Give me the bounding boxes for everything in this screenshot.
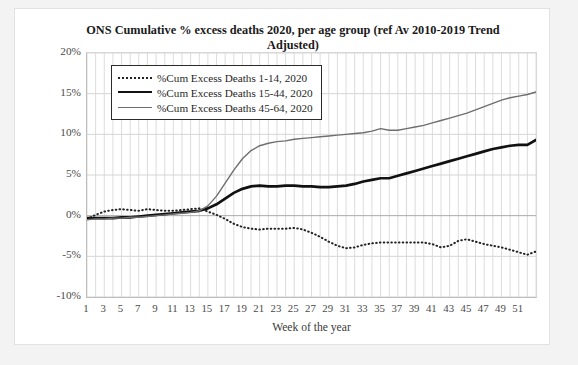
legend-item-label: %Cum Excess Deaths 1-14, 2020 xyxy=(157,72,307,84)
chart-card: ONS Cumulative % excess deaths 2020, per… xyxy=(14,8,550,345)
y-tick-label: 5% xyxy=(35,167,81,179)
legend-item[interactable]: %Cum Excess Deaths 15-44, 2020 xyxy=(118,85,313,100)
y-axis-ticks: 20%15%10%5%0%-5%-10% xyxy=(25,9,81,346)
y-tick-label: -10% xyxy=(35,289,81,301)
chart-legend: %Cum Excess Deaths 1-14, 2020%Cum Excess… xyxy=(111,65,322,120)
y-tick-label: 20% xyxy=(35,45,81,57)
y-tick-label: 15% xyxy=(35,86,81,98)
x-axis-ticks: 1357911131517192123252729313335373941434… xyxy=(86,302,537,322)
legend-line-swatch-icon xyxy=(118,87,152,99)
legend-line-swatch-icon xyxy=(118,102,152,114)
x-tick-label: 51 xyxy=(508,302,528,314)
x-axis-label: Week of the year xyxy=(86,321,537,334)
y-tick-label: 10% xyxy=(35,126,81,138)
y-tick-label: -5% xyxy=(35,248,81,260)
legend-item[interactable]: %Cum Excess Deaths 1-14, 2020 xyxy=(118,70,313,85)
legend-line-swatch-icon xyxy=(118,72,152,84)
legend-item-label: %Cum Excess Deaths 15-44, 2020 xyxy=(157,87,313,99)
legend-item[interactable]: %Cum Excess Deaths 45-64, 2020 xyxy=(118,100,313,115)
y-tick-label: 0% xyxy=(35,208,81,220)
chart-title: ONS Cumulative % excess deaths 2020, per… xyxy=(71,23,515,53)
legend-item-label: %Cum Excess Deaths 45-64, 2020 xyxy=(157,102,313,114)
y-axis-label-wrapper: Cumulative excess deaths, % of year aver… xyxy=(15,9,16,10)
